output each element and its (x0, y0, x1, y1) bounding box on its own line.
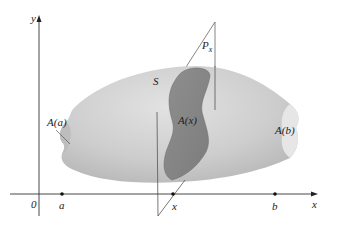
plane-label-subscript: x (209, 45, 213, 54)
origin-label: 0 (31, 199, 37, 210)
y-axis-label: y (31, 13, 36, 24)
x-axis-label: x (312, 199, 317, 210)
x-axis (10, 192, 318, 197)
point-x-label: x (172, 201, 177, 212)
section-a-label: A(a) (47, 117, 67, 128)
plane-label-main: P (202, 39, 209, 51)
diagram-canvas (0, 0, 342, 228)
point-x (171, 192, 175, 196)
point-a-label: a (59, 200, 65, 211)
point-b (273, 192, 277, 196)
section-b-label: A(b) (275, 125, 295, 136)
point-a (60, 192, 64, 196)
section-x-label: A(x) (178, 115, 197, 126)
plane-label: Px (202, 40, 212, 54)
point-b-label: b (272, 201, 278, 212)
y-axis (37, 15, 42, 216)
solid-label: S (153, 76, 159, 87)
